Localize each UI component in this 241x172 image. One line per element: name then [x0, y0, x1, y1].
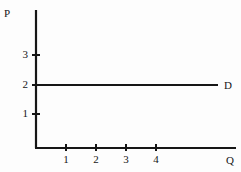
x-axis-tick-label: 2	[90, 154, 102, 165]
plot-canvas	[0, 0, 241, 172]
axis-lines	[35, 10, 236, 148]
y-axis-tick-label: 2	[16, 79, 28, 90]
y-axis-title: P	[4, 8, 10, 19]
y-axis-tick-label: 3	[16, 49, 28, 60]
demand-curve-figure: P Q D 321 1234	[0, 0, 241, 172]
y-axis-tick-label: 1	[16, 108, 28, 119]
x-axis-title: Q	[226, 155, 234, 166]
x-axis-tick-label: 3	[120, 154, 132, 165]
x-axis-tick-label: 4	[150, 154, 162, 165]
x-axis-tick-label: 1	[60, 154, 72, 165]
demand-curve-label: D	[224, 80, 232, 91]
